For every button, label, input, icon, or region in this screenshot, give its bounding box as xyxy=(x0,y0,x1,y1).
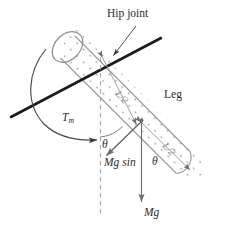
mg-sin-theta-angle-label: θ xyxy=(152,156,158,168)
hip-joint-label: Hip joint xyxy=(107,8,148,20)
hip-joint-leader-arrow xyxy=(114,26,137,56)
mg-sin-theta-label: Mg sin xyxy=(104,157,136,169)
torque-label: Tm xyxy=(62,112,74,125)
diagram-canvas xyxy=(0,0,225,235)
leg-label: Leg xyxy=(164,89,182,101)
center-of-mass-point xyxy=(140,119,144,123)
mg-label: Mg xyxy=(144,207,159,219)
mg-sin-theta-vector xyxy=(107,121,143,156)
theta-angle-arc xyxy=(101,127,123,138)
leg-hip-joint-diagram: Hip joint Leg Tm θ Mg sin θ Mg L/2 L/2 xyxy=(0,0,225,235)
theta-axis-label: θ xyxy=(102,139,108,151)
torque-subscript: m xyxy=(68,116,74,125)
